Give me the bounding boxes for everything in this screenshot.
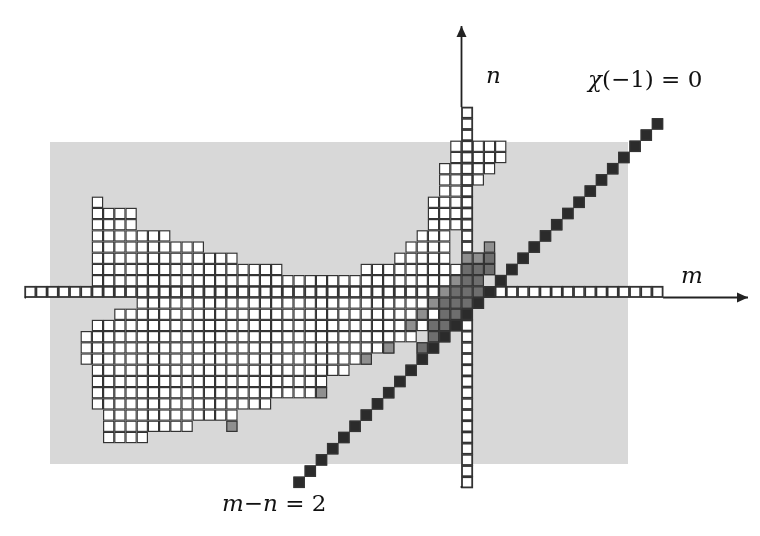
chi-symbol: χ: [588, 66, 602, 92]
diagonal-condition-rest: = 2: [278, 490, 327, 516]
minus-symbol: −: [244, 490, 263, 516]
m-axis-label: m: [681, 264, 703, 287]
m-symbol: m: [222, 490, 244, 516]
n-symbol: n: [263, 490, 278, 516]
n-axis-label: n: [486, 64, 501, 87]
diagonal-condition-label: m−n = 2: [222, 492, 326, 515]
lattice-figure: n m χ(−1) = 0 m−n = 2: [0, 0, 760, 536]
chi-condition-label: χ(−1) = 0: [588, 68, 702, 91]
chi-condition-rest: (−1) = 0: [602, 66, 702, 92]
